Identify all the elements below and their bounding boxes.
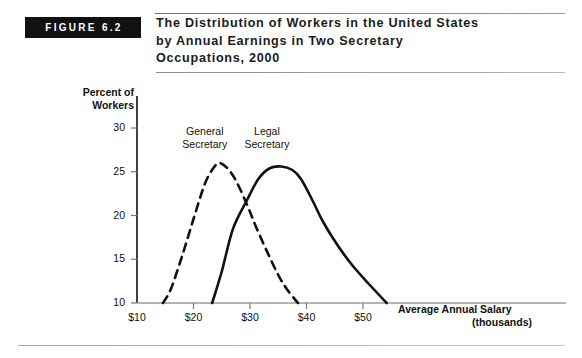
x-axis-title-line-1: Average Annual Salary [398,303,512,315]
x-tick-marks [194,303,364,309]
figure-container: FIGURE 6.2 The Distribution of Workers i… [0,0,582,358]
series-annotation-line-2: Secretary [244,138,289,150]
series-annotation-line-2: Secretary [182,138,227,150]
y-tick-marks [131,128,137,303]
x-axis-title: Average Annual Salary (thousands) [398,303,548,328]
y-axis-title-line-1: Percent of [83,86,134,98]
y-axis-title-line-2: Workers [92,99,134,111]
series-annotation: LegalSecretary [230,125,304,150]
x-tick-label: $10 [117,311,157,323]
y-tick-label: 10 [101,296,125,308]
series-annotation-line-1: General [186,125,223,137]
chart-series-group [163,163,387,303]
x-tick-label: $50 [343,311,383,323]
y-tick-label: 20 [101,209,125,221]
x-tick-label: $20 [174,311,214,323]
y-tick-label: 30 [101,121,125,133]
x-axis-title-line-2: (thousands) [398,316,532,329]
x-tick-label: $40 [287,311,327,323]
bottom-divider [18,345,565,346]
series-annotation-line-1: Legal [254,125,280,137]
y-tick-label: 25 [101,165,125,177]
y-tick-label: 15 [101,252,125,264]
y-axis-title: Percent of Workers [62,86,134,111]
x-tick-label: $30 [230,311,270,323]
